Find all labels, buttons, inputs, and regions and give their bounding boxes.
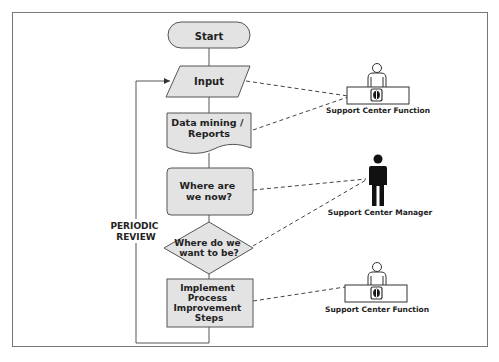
implement-node[interactable]: Implement Process Improvement Steps [167, 279, 253, 327]
person-at-desk-icon [347, 64, 409, 105]
support-center-function-bottom: Support Center Function [325, 263, 429, 315]
support-center-function-top-label: Support Center Function [326, 106, 430, 115]
support-center-function-top: Support Center Function [326, 64, 430, 116]
standing-person-icon [369, 155, 387, 207]
where-are-we-now-label: Where are we now? [180, 180, 239, 202]
support-center-function-bottom-label: Support Center Function [325, 305, 429, 314]
input-label: Input [194, 76, 224, 87]
input-node[interactable]: Input [166, 66, 250, 97]
where-do-we-want-to-be-node[interactable]: Where do we want to be? [164, 222, 253, 274]
periodic-review-label: PERIODIC REVIEW [110, 219, 162, 243]
start-node[interactable]: Start [168, 22, 250, 48]
flowchart-canvas: Start Input Data mining / Reports Where … [0, 0, 499, 362]
start-label: Start [195, 31, 224, 42]
data-mining-node[interactable]: Data mining / Reports [167, 113, 251, 153]
where-are-we-now-node[interactable]: Where are we now? [167, 168, 253, 215]
svg-text:PERIODIC REVIEW: PERIODIC REVIEW [110, 221, 161, 242]
support-center-manager-label: Support Center Manager [328, 208, 433, 217]
support-center-manager: Support Center Manager [328, 155, 433, 218]
where-do-we-want-label: Where do we want to be? [174, 238, 243, 258]
person-at-desk-icon [345, 263, 407, 303]
